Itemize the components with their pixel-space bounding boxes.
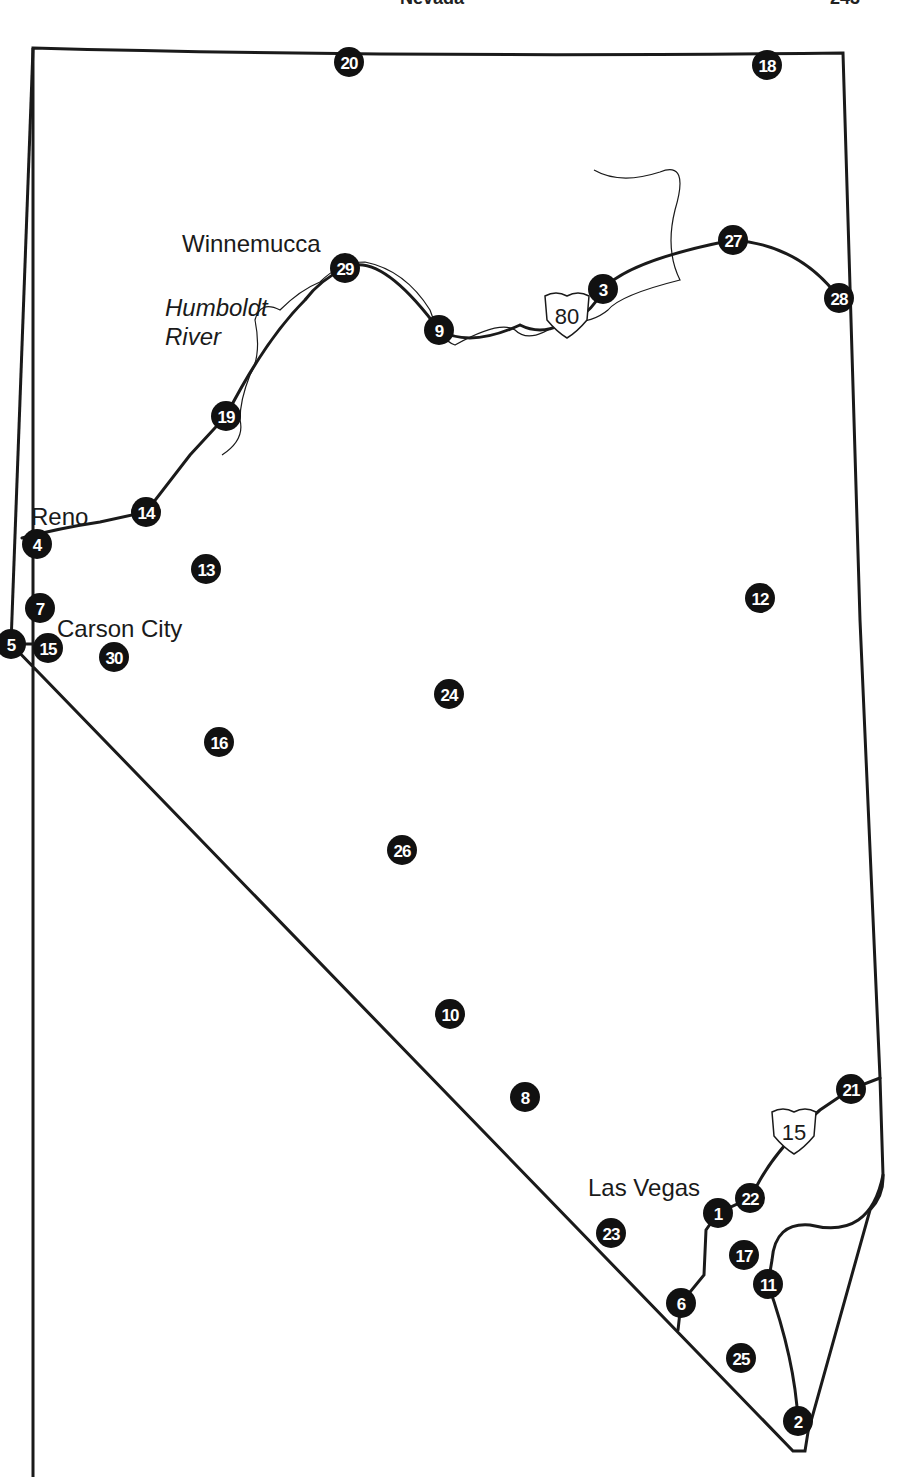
marker-number: 15 xyxy=(40,640,57,659)
site-marker-28[interactable]: 28 xyxy=(824,283,854,313)
site-marker-23[interactable]: 23 xyxy=(596,1218,626,1248)
svg-text:80: 80 xyxy=(555,304,579,329)
marker-number: 30 xyxy=(106,649,123,668)
site-marker-1[interactable]: 1 xyxy=(703,1198,733,1228)
river-label-river: River xyxy=(165,323,222,350)
site-marker-22[interactable]: 22 xyxy=(735,1183,765,1213)
site-marker-25[interactable]: 25 xyxy=(726,1343,756,1373)
site-marker-4[interactable]: 4 xyxy=(22,529,52,559)
site-marker-7[interactable]: 7 xyxy=(25,593,55,623)
marker-number: 23 xyxy=(603,1225,620,1244)
marker-number: 2 xyxy=(794,1413,803,1432)
marker-number: 25 xyxy=(733,1350,750,1369)
site-marker-19[interactable]: 19 xyxy=(211,401,241,431)
site-marker-3[interactable]: 3 xyxy=(588,274,618,304)
page-number: 243 xyxy=(830,0,860,8)
marker-number: 22 xyxy=(742,1190,759,1209)
marker-number: 19 xyxy=(218,408,235,427)
site-marker-24[interactable]: 24 xyxy=(434,679,464,709)
site-marker-21[interactable]: 21 xyxy=(836,1074,866,1104)
site-marker-14[interactable]: 14 xyxy=(131,497,161,527)
site-marker-6[interactable]: 6 xyxy=(666,1288,696,1318)
highway-93-road xyxy=(768,1175,883,1421)
marker-number: 13 xyxy=(198,561,215,580)
river-label-humboldt: Humboldt xyxy=(165,294,269,321)
humboldt-river xyxy=(222,170,680,455)
marker-number: 26 xyxy=(394,842,411,861)
site-marker-8[interactable]: 8 xyxy=(510,1082,540,1112)
marker-number: 20 xyxy=(341,54,358,73)
svg-text:15: 15 xyxy=(782,1120,806,1145)
marker-number: 8 xyxy=(521,1089,530,1108)
marker-number: 10 xyxy=(442,1006,459,1025)
site-marker-12[interactable]: 12 xyxy=(745,583,775,613)
interstate-80-shield: 80 xyxy=(545,293,589,338)
site-marker-11[interactable]: 11 xyxy=(753,1269,783,1299)
city-label-las-vegas: Las Vegas xyxy=(588,1174,700,1201)
site-marker-20[interactable]: 20 xyxy=(334,47,364,77)
city-label-carson-city: Carson City xyxy=(57,615,182,642)
site-marker-15[interactable]: 15 xyxy=(33,633,63,663)
interstate-80-road xyxy=(22,240,839,538)
site-marker-13[interactable]: 13 xyxy=(191,554,221,584)
marker-number: 17 xyxy=(736,1247,753,1266)
site-markers: 1234567891011121314151617181920212223242… xyxy=(0,47,866,1436)
site-marker-17[interactable]: 17 xyxy=(729,1240,759,1270)
running-header: Nevada xyxy=(400,0,465,8)
marker-number: 7 xyxy=(36,600,45,619)
site-marker-29[interactable]: 29 xyxy=(330,253,360,283)
site-marker-18[interactable]: 18 xyxy=(752,50,782,80)
site-marker-27[interactable]: 27 xyxy=(718,225,748,255)
marker-number: 29 xyxy=(337,260,354,279)
marker-number: 14 xyxy=(138,504,156,523)
marker-number: 9 xyxy=(435,322,444,341)
marker-number: 1 xyxy=(714,1205,723,1224)
site-marker-30[interactable]: 30 xyxy=(99,642,129,672)
site-marker-10[interactable]: 10 xyxy=(435,999,465,1029)
marker-number: 21 xyxy=(843,1081,860,1100)
site-marker-9[interactable]: 9 xyxy=(424,315,454,345)
marker-number: 3 xyxy=(599,281,608,300)
interstate-15-shield: 15 xyxy=(772,1109,816,1154)
city-label-reno: Reno xyxy=(31,503,88,530)
marker-number: 12 xyxy=(752,590,769,609)
marker-number: 24 xyxy=(441,686,459,705)
nevada-map: Nevada 243 80 15 Winnemucca Reno Carson … xyxy=(0,0,910,1479)
city-label-winnemucca: Winnemucca xyxy=(182,230,321,257)
marker-number: 5 xyxy=(7,636,16,655)
marker-number: 28 xyxy=(831,290,848,309)
site-marker-2[interactable]: 2 xyxy=(783,1406,813,1436)
marker-number: 18 xyxy=(759,57,776,76)
marker-number: 11 xyxy=(760,1276,777,1295)
marker-number: 6 xyxy=(677,1295,686,1314)
site-marker-26[interactable]: 26 xyxy=(387,835,417,865)
marker-number: 27 xyxy=(725,232,742,251)
site-marker-16[interactable]: 16 xyxy=(204,727,234,757)
marker-number: 16 xyxy=(211,734,228,753)
